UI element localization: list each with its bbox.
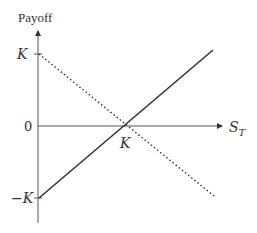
payoff-diagram: Payoff K 0 −K K ST <box>0 0 257 233</box>
y-tick-label-neg-k: −K <box>11 190 35 206</box>
x-axis-label: ST <box>229 119 247 138</box>
x-axis-label-subscript: T <box>239 127 247 138</box>
x-tick-label-k: K <box>119 135 132 151</box>
solid-payoff-line <box>39 50 213 198</box>
y-tick-label-k: K <box>16 46 29 62</box>
y-tick-label-zero: 0 <box>24 119 32 134</box>
y-axis-label: Payoff <box>18 10 53 25</box>
